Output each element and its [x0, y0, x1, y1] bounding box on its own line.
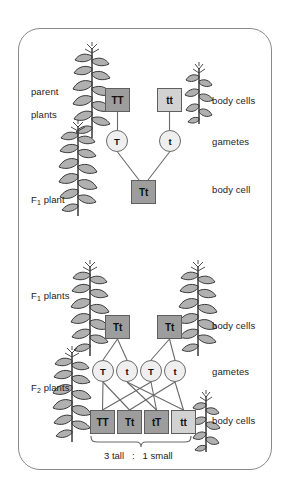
f2-genotype-TT[interactable]: TT: [90, 410, 115, 434]
label-f1-plant: F1 plant: [20, 182, 65, 218]
label-f2-plants-sub: 2: [37, 387, 41, 394]
label-parent-plants-line1: parent: [31, 86, 59, 97]
f2-genotype-tt[interactable]: tt: [171, 410, 196, 434]
label-parent-plants-line2: plants: [31, 109, 57, 120]
f2-genotype-tT[interactable]: tT: [144, 410, 169, 434]
gamete-t-2[interactable]: t: [164, 360, 186, 382]
label-f2-plants: F2 plants: [20, 370, 70, 406]
label-f1-plants-word: plants: [44, 290, 70, 301]
f1-genotype-Tt-right[interactable]: Tt: [157, 315, 182, 339]
f2-genotype-Tt[interactable]: Tt: [117, 410, 142, 434]
label-parent-plants: parent plants: [20, 74, 59, 132]
ratio-caption: 3 tall : 1 small: [104, 450, 173, 461]
gamete-T-2[interactable]: T: [140, 360, 162, 382]
label-f1-plant-sub: 1: [37, 199, 41, 206]
f1-genotype-Tt[interactable]: Tt: [131, 180, 156, 204]
gamete-T[interactable]: T: [106, 130, 128, 152]
gamete-T-1[interactable]: T: [92, 360, 114, 382]
label-gametes-f1: gametes: [212, 136, 249, 148]
label-f2-plants-word: plants: [44, 382, 70, 393]
genetics-inheritance-diagram: parent plants F1 plant F1 plants F2 plan…: [0, 0, 294, 485]
label-gametes-f2: gametes: [212, 366, 249, 378]
label-body-cell-f1: body cell: [212, 184, 250, 196]
gamete-t-1[interactable]: t: [116, 360, 138, 382]
label-body-cells-f2: body cells: [212, 415, 255, 427]
parent-genotype-TT[interactable]: TT: [105, 88, 130, 112]
parent-genotype-tt[interactable]: tt: [157, 88, 182, 112]
label-f1-plant-word: plant: [44, 194, 65, 205]
label-f1-plants: F1 plants: [20, 278, 70, 314]
label-body-cells-parent: body cells: [212, 95, 255, 107]
label-body-cells-f1: body cells: [212, 320, 255, 332]
f1-genotype-Tt-left[interactable]: Tt: [105, 315, 130, 339]
label-f1-plants-sub: 1: [37, 295, 41, 302]
gamete-t[interactable]: t: [159, 130, 181, 152]
